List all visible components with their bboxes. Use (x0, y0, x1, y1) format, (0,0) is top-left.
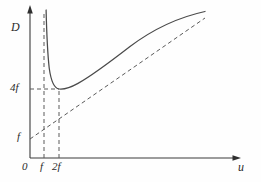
plot-canvas (0, 0, 261, 182)
x-tick-label-f: f (40, 160, 43, 172)
y-tick-label-f: f (17, 130, 20, 142)
y-tick-label-4f: 4f (10, 81, 19, 93)
x-tick-label-2f: 2f (52, 160, 61, 172)
x-axis (30, 155, 241, 161)
lens-distance-curve (46, 10, 205, 89)
y-axis-label: D (11, 20, 20, 35)
figure-container: D u 4f f 0 f 2f (0, 0, 261, 182)
x-tick-label-origin: 0 (22, 160, 28, 172)
x-axis-label: u (238, 160, 244, 175)
y-axis (27, 5, 33, 158)
oblique-asymptote-line (30, 18, 205, 139)
